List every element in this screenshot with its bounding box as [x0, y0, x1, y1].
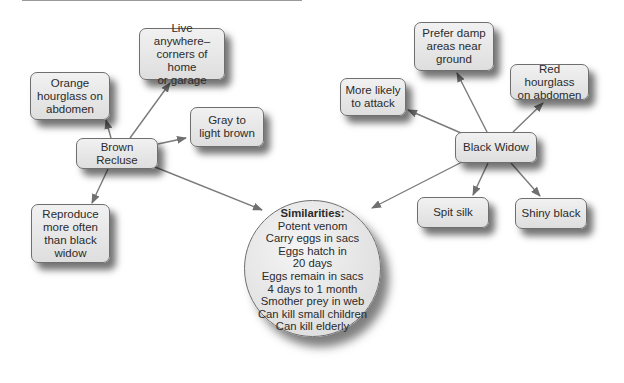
- similarities-title: Similarities:: [245, 207, 380, 220]
- trait-prefer-damp: Prefer damp areas near ground: [414, 22, 494, 71]
- trait-gray-brown: Gray to light brown: [190, 107, 264, 147]
- similarity-item: 20 days: [245, 257, 380, 270]
- trait-reproduce-more: Reproduce more often than black widow: [31, 204, 110, 263]
- brown-recluse-node: Brown Recluse: [76, 138, 158, 169]
- similarities-circle: Similarities: Potent venom Carry eggs in…: [244, 200, 381, 337]
- trait-live-anywhere: Live anywhere– corners of home or garage: [139, 28, 225, 80]
- similarity-item: Smother prey in web: [245, 295, 380, 308]
- similarity-item: Can kill small children: [245, 308, 380, 321]
- trait-more-likely-attack: More likely to attack: [340, 78, 406, 116]
- similarity-item: Eggs hatch in: [245, 245, 380, 258]
- similarity-item: Carry eggs in sacs: [245, 232, 380, 245]
- trait-spit-silk: Spit silk: [417, 197, 489, 228]
- similarity-item: Eggs remain in sacs: [245, 270, 380, 283]
- similarity-item: 4 days to 1 month: [245, 283, 380, 296]
- brown-recluse-label: Brown Recluse: [81, 141, 153, 167]
- similarity-item: Potent venom: [245, 220, 380, 233]
- trait-orange-hourglass: Orange hourglass on abdomen: [30, 72, 110, 120]
- black-widow-node: Black Widow: [455, 132, 537, 163]
- similarity-item: Can kill elderly: [245, 320, 380, 333]
- trait-shiny-black: Shiny black: [515, 198, 587, 229]
- black-widow-label: Black Widow: [463, 141, 529, 154]
- trait-red-hourglass: Red hourglass on abdomen: [510, 64, 589, 100]
